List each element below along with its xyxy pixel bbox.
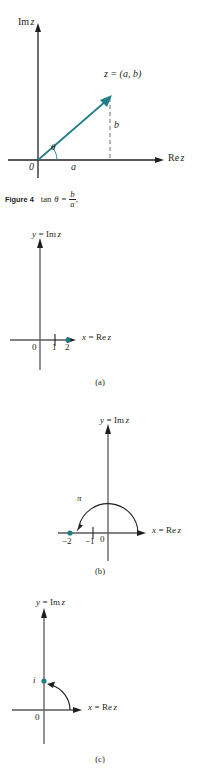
figure-caption-denominator: a <box>69 199 75 209</box>
figure-caption-numerator: b <box>69 190 75 199</box>
panel-c: y=Imz x=Rez i π2 0 (c) <box>0 592 200 775</box>
figure-4: Imz Rez 0 θ a b z=(a, b) Figure 4tanθ=ba… <box>0 0 200 212</box>
panel-a-tick-label-0: 0 <box>32 343 37 352</box>
angle-theta-label: θ <box>51 143 55 152</box>
panel-a-graphic <box>0 222 200 372</box>
complex-number-vector <box>38 101 106 160</box>
panel-b-tick-label-minus1: −1 <box>85 537 95 546</box>
figure-caption-equals: = <box>61 194 66 204</box>
panel-b-sublabel: (b) <box>0 566 200 576</box>
panel-b-tick-label-0: 0 <box>100 535 105 544</box>
panel-a-tick-label-2: 2 <box>65 343 70 352</box>
real-axis-arrowhead <box>155 157 164 163</box>
panel-c-x-axis-label: x=Rez <box>88 703 117 712</box>
real-axis-label: Rez <box>168 153 185 163</box>
panel-b-y-axis-label: y=Imz <box>100 416 129 425</box>
panel-a-x-axis-label: x=Rez <box>82 333 111 342</box>
panel-a-y-axis-label: y=Imz <box>32 230 61 239</box>
panel-b-point-marker <box>67 530 72 535</box>
panel-b-y-axis-arrowhead <box>105 424 111 434</box>
panel-c-point-label: i <box>33 676 36 685</box>
panel-c-y-axis-arrowhead <box>41 608 47 618</box>
panel-b-x-axis-label: x=Rez <box>152 526 181 535</box>
figure-caption-theta: θ <box>54 194 58 204</box>
imaginary-axis-arrowhead <box>35 23 41 32</box>
figure-caption-period: , <box>76 194 78 204</box>
figure-caption-fraction: ba <box>69 190 75 209</box>
panel-b: y=Imz x=Rez π −2 −1 0 (b) <box>0 398 200 588</box>
figure-page: · · Imz Rez 0 θ a b z=(a, b) Figure 4tan <box>0 0 200 775</box>
panel-b-tick-label-minus2: −2 <box>62 537 72 546</box>
leg-b-label: b <box>114 120 119 130</box>
leg-a-label: a <box>71 162 76 172</box>
panel-b-arc-arrowhead <box>77 524 84 532</box>
panel-a-y-axis-arrowhead <box>37 238 43 248</box>
panel-a-tick-label-1: 1 <box>52 343 57 352</box>
panel-c-angle-arc <box>51 685 70 710</box>
panel-a: y=Imz x=Rez 0 1 2 (a) <box>0 222 200 402</box>
panel-c-y-axis-label: y=Imz <box>36 598 65 607</box>
panel-c-arc-arrowhead <box>47 682 55 689</box>
figure-caption-tan: tan <box>41 194 52 204</box>
imaginary-axis-label: Imz <box>18 17 35 27</box>
point-z-label: z=(a, b) <box>104 69 141 79</box>
figure-caption-number: Figure 4 <box>5 195 34 204</box>
origin-label: 0 <box>29 162 34 172</box>
figure-4-caption: Figure 4tanθ=ba, <box>5 191 78 210</box>
panel-b-angle-label: π <box>77 494 82 503</box>
panel-c-x-axis-arrowhead <box>73 707 82 713</box>
panel-c-sublabel: (c) <box>0 754 200 764</box>
panel-c-point-marker <box>41 678 46 683</box>
panel-c-graphic <box>0 592 200 747</box>
panel-c-origin-label: 0 <box>35 713 40 722</box>
panel-a-sublabel: (a) <box>0 377 200 387</box>
